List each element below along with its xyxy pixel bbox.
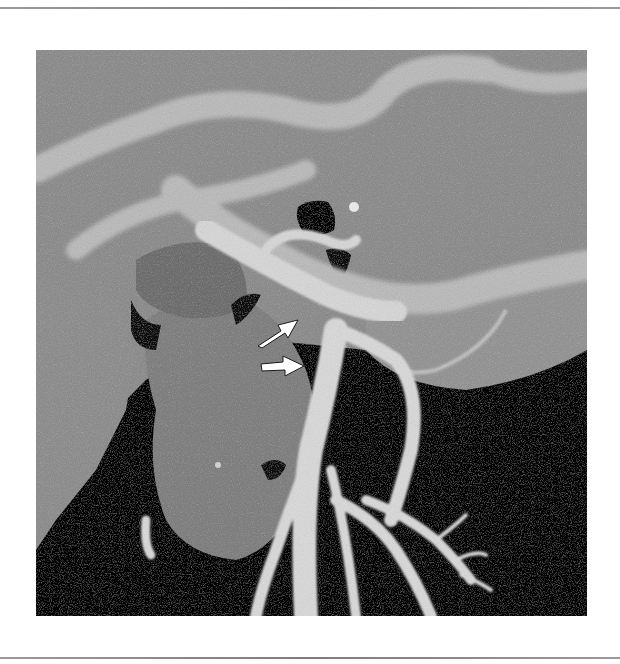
vascular-render-image (36, 50, 587, 616)
bottom-rule (0, 657, 620, 659)
top-rule (0, 7, 620, 9)
ct-angiography-figure (36, 50, 587, 616)
